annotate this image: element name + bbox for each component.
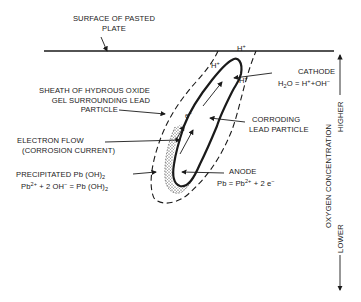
surface-leader bbox=[101, 37, 107, 51]
e-minus-marker: e− bbox=[185, 111, 192, 121]
oxygen-axis-lower: LOWER bbox=[336, 224, 345, 253]
electron-flow-line2: (CORROSION CURRENT) bbox=[17, 146, 115, 156]
surface-label-line1: SURFACE OF PASTED bbox=[64, 14, 164, 24]
sheath-label-line1: SHEATH OF HYDROUS OXIDE bbox=[16, 86, 150, 96]
anode-label: ANODE Pb = Pb2+ + 2 e− bbox=[217, 167, 275, 188]
corroding-label: CORRODING LEAD PARTICLE bbox=[249, 115, 309, 134]
h-plus-marker-left: H+ bbox=[211, 61, 220, 71]
sheath-label: SHEATH OF HYDROUS OXIDE GEL SURROUNDING … bbox=[16, 86, 150, 115]
precipitated-line1: PRECIPITATED Pb (OH)2 bbox=[16, 170, 108, 180]
precipitated-label: PRECIPITATED Pb (OH)2 Pb2+ + 2 OH− = Pb … bbox=[16, 170, 108, 191]
precipitated-equation: Pb2+ + 2 OH− = Pb (OH)2 bbox=[16, 182, 108, 192]
cathode-title: CATHODE bbox=[278, 67, 335, 77]
electron-flow-leader bbox=[105, 140, 180, 142]
sheath-label-line3: PARTICLE bbox=[16, 105, 150, 115]
oxygen-axis-higher: HIGHER bbox=[336, 101, 345, 132]
oxygen-axis-label: OXYGEN CONCENTRATION bbox=[324, 124, 333, 228]
anode-title: ANODE bbox=[217, 167, 275, 177]
corroding-line2: LEAD PARTICLE bbox=[249, 125, 309, 135]
h-plus-marker-top: H+ bbox=[237, 44, 246, 54]
electron-flow-label: ELECTRON FLOW (CORROSION CURRENT) bbox=[17, 136, 115, 155]
corroding-line1: CORRODING bbox=[249, 115, 309, 125]
surface-label: SURFACE OF PASTED PLATE bbox=[64, 14, 164, 33]
precipitated-leader bbox=[133, 172, 156, 174]
anode-equation: Pb = Pb2+ + 2 e− bbox=[217, 179, 275, 189]
electron-flow-line1: ELECTRON FLOW bbox=[17, 136, 115, 146]
sheath-label-line2: GEL SURROUNDING LEAD bbox=[16, 96, 150, 106]
cathode-equation: H2O = H++OH− bbox=[278, 79, 335, 89]
cathode-label: CATHODE H2O = H++OH− bbox=[278, 67, 335, 88]
h-plus-marker-right: H+ bbox=[239, 76, 248, 86]
surface-label-line2: PLATE bbox=[64, 24, 164, 34]
